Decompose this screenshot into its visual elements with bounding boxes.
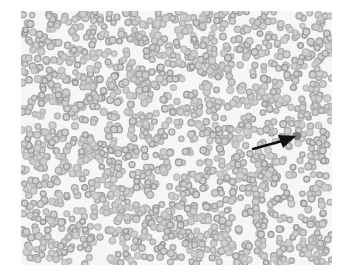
- red-blood-cells: [21, 11, 332, 265]
- blood-smear-micrograph: [21, 11, 332, 265]
